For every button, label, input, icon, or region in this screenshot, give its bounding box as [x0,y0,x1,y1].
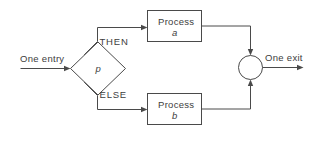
merge-bottom-arrowhead-icon [248,80,253,87]
junction-node [239,56,263,80]
merge-top-line [202,26,251,49]
merge-connector-bottom [202,80,254,110]
process-a-node: Process a [148,11,202,42]
process-b-label-line1: Process [158,99,194,110]
process-b-label-line2: b [172,110,177,121]
decision-label: p [95,63,101,74]
flowchart-diagram: One entry p THEN ELSE Process a Process [0,0,313,153]
process-b-node: Process b [148,94,202,125]
entry-connector [21,66,71,71]
entry-label: One entry [20,53,64,64]
exit-arrowhead-icon [297,65,304,70]
merge-bottom-line [202,86,251,109]
merge-connector-top [202,26,254,56]
exit-label: One exit [265,52,303,63]
then-label: THEN [100,36,129,47]
process-a-label-line2: a [172,27,177,38]
decision-node: p [71,42,126,95]
process-a-label-line1: Process [158,16,194,27]
else-arrowhead-icon [141,107,148,112]
merge-top-arrowhead-icon [248,49,253,56]
then-arrowhead-icon [141,25,148,30]
entry-arrowhead-icon [64,66,71,71]
else-label: ELSE [100,89,128,100]
junction-circle-shape [239,56,263,80]
exit-connector [263,65,304,70]
flowchart-canvas: One entry p THEN ELSE Process a Process [0,0,313,153]
